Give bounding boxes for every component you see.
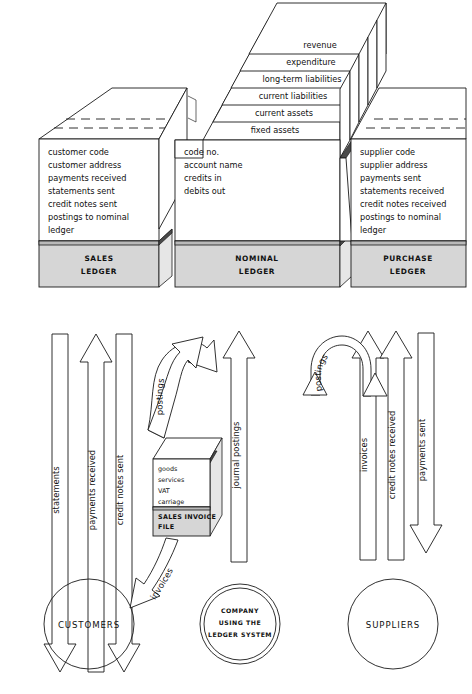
sales-field-3: statements sent — [48, 186, 116, 196]
purchase-field-3: statements received — [360, 186, 444, 196]
nominal-right-inner-face — [340, 158, 352, 241]
sales-field-5: postings to nominal — [48, 212, 129, 222]
sales-base-top-edge — [39, 241, 159, 245]
purchase-base-face — [351, 241, 466, 287]
sales-invoice-file-box: goods services VAT carriage SALES INVOIC… — [153, 438, 222, 536]
nominal-field-2: credits in — [184, 173, 222, 183]
statements-label: statements — [51, 466, 61, 513]
sales-base-face — [39, 241, 159, 287]
entity-suppliers: SUPPLIERS — [348, 579, 438, 669]
flow-arrow-credit-notes-received: credit notes received — [380, 331, 412, 560]
journal-postings-label: journal postings — [231, 422, 241, 490]
sales-field-0: customer code — [48, 147, 109, 157]
nominal-base-top-edge — [175, 241, 340, 245]
purchase-name-line1: PURCHASE — [383, 254, 433, 263]
invoice-file-label-edge — [153, 507, 210, 510]
payments-received-label: payments received — [87, 450, 97, 530]
purchase-base-top-edge — [351, 241, 466, 245]
entity-company: COMPANY USING THE LEDGER SYSTEM — [200, 584, 280, 664]
ledger-block-purchase: supplier code supplier address payments … — [351, 88, 466, 287]
sales-field-1: customer address — [48, 160, 121, 170]
nominal-field-1: account name — [184, 160, 242, 170]
ledger-block-sales: customer code customer address payments … — [39, 88, 187, 287]
company-label-line1: COMPANY — [221, 607, 259, 614]
sales-field-2: payments received — [48, 173, 126, 183]
invoice-file-item-1: services — [158, 476, 185, 484]
company-label-line3: LEDGER SYSTEM — [208, 631, 272, 638]
purchase-name-line2: LEDGER — [390, 267, 426, 276]
invoice-file-item-2: VAT — [158, 487, 170, 495]
invoice-file-caption-line1: SALES INVOICE — [158, 513, 216, 521]
credit-notes-received-label: credit notes received — [387, 411, 397, 499]
invoice-file-caption-line2: FILE — [158, 523, 174, 531]
invoice-file-item-3: carriage — [158, 498, 184, 506]
company-label: COMPANY USING THE LEDGER SYSTEM — [208, 607, 272, 638]
nominal-top-label-5: fixed assets — [251, 125, 300, 135]
flow-arrow-invoices-curve: invoices — [130, 538, 178, 608]
nominal-top-label-2: long-term liabilities — [262, 74, 341, 84]
nominal-top-label-0: revenue — [303, 40, 337, 50]
invoices-label: invoices — [359, 438, 369, 472]
nominal-top-label-4: current assets — [255, 108, 313, 118]
company-label-line2: USING THE — [219, 619, 261, 626]
ledger-system-diagram: customer code customer address payments … — [0, 0, 472, 694]
nominal-top-label-3: current liabilities — [259, 91, 328, 101]
nominal-name-line2: LEDGER — [239, 267, 275, 276]
sales-field-6: ledger — [48, 225, 75, 235]
flow-arrow-payments-sent: payments sent — [410, 333, 442, 553]
invoice-file-item-0: goods — [158, 465, 178, 473]
credit-notes-sent-label: credit notes sent — [115, 454, 125, 525]
flow-arrow-journal-postings: journal postings — [223, 331, 255, 562]
payments-sent-label: payments sent — [417, 418, 427, 481]
purchase-field-4: credit notes received — [360, 199, 446, 209]
nominal-name-line1: NOMINAL — [235, 254, 278, 263]
suppliers-label: SUPPLIERS — [366, 620, 420, 630]
nominal-field-0: code no. — [184, 147, 219, 157]
sales-field-4: credit notes sent — [48, 199, 118, 209]
flow-arrow-postings-left: postings — [148, 337, 217, 438]
flow-group-centre: journal postings — [223, 331, 255, 562]
nominal-top-label-1: expenditure — [286, 57, 335, 67]
invoice-file-label-band — [153, 507, 210, 536]
purchase-field-1: supplier address — [360, 160, 428, 170]
ledger-blocks: customer code customer address payments … — [39, 3, 466, 287]
customers-label: CUSTOMERS — [58, 620, 120, 630]
nominal-base-face — [175, 241, 340, 287]
purchase-field-6: ledger — [360, 225, 387, 235]
purchase-field-0: supplier code — [360, 147, 415, 157]
sales-nominal-connector — [188, 96, 196, 122]
purchase-field-2: payments sent — [360, 173, 422, 183]
nominal-field-3: debits out — [184, 186, 226, 196]
diagram-canvas: customer code customer address payments … — [0, 0, 472, 694]
sales-name-line2: LEDGER — [81, 267, 117, 276]
purchase-field-5: postings to nominal — [360, 212, 441, 222]
sales-name-line1: SALES — [84, 254, 113, 263]
